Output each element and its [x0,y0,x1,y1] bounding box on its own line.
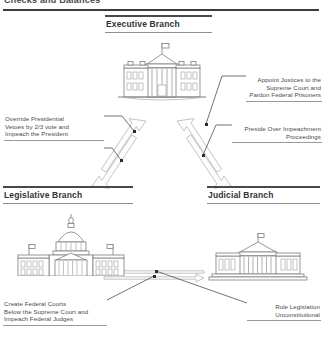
white-house-icon [110,43,214,109]
note-underline [4,140,104,141]
note-underline [3,325,107,326]
branch-heading-executive: Executive Branch [105,15,212,33]
note-underline [246,101,322,102]
note-text: Rule Legislation Unconstitutional [247,303,321,320]
capitol-building-icon [16,214,126,280]
note-preside-impeachment: Preside Over Impeachment Proceedings [232,125,322,143]
supreme-court-icon [206,233,310,285]
note-text: Create Federal Courts Below the Supreme … [3,300,107,325]
note-underline [247,320,321,321]
leader-dot-override [133,130,136,133]
leader-dot-appoint [205,123,208,126]
branch-label-judicial: Judicial Branch [207,188,320,202]
heading-rule-bottom [105,32,212,33]
branch-label-legislative: Legislative Branch [3,188,133,202]
note-create-federal-courts: Create Federal Courts Below the Supreme … [3,300,107,326]
leader-dot-rule [155,270,158,273]
note-override-veto: Override Presidential Vetoes by 2/3 vote… [4,115,104,141]
branch-heading-legislative: Legislative Branch [3,186,133,204]
leader-dot-override-lower [120,159,123,162]
note-rule-unconstitutional: Rule Legislation Unconstitutional [247,303,321,321]
note-text: Appoint Justices to the Supreme Court an… [246,76,322,101]
branch-heading-judicial: Judicial Branch [207,186,320,204]
leader-dot-create [153,275,156,278]
note-appoint-justices: Appoint Justices to the Supreme Court an… [246,76,322,102]
note-text: Preside Over Impeachment Proceedings [232,125,322,142]
note-text: Override Presidential Vetoes by 2/3 vote… [4,115,104,140]
leader-dot-preside [202,154,205,157]
arrow-legis-to-exec [101,119,146,173]
heading-rule-bottom [3,203,133,204]
checks-and-balances-diagram: Checks and Balances .ar{fill:#fdfdfd;str… [0,0,323,343]
branch-label-executive: Executive Branch [105,17,212,31]
note-underline [232,142,322,143]
arrow-exec-to-legis [92,135,137,189]
heading-rule-bottom [207,203,320,204]
